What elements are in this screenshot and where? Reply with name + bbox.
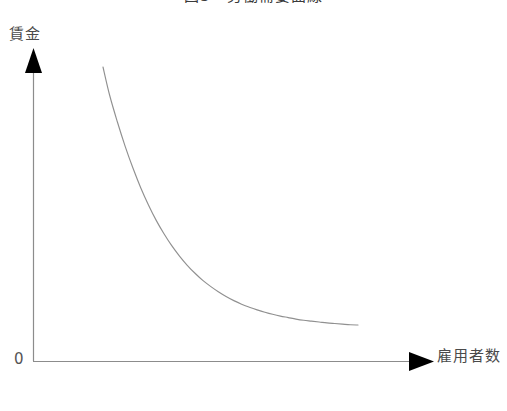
figure-container: 図3 労働需要曲線 賃金 雇用者数 0 [0, 0, 507, 411]
right-arrow-icon [409, 352, 434, 371]
up-arrow-icon [25, 48, 42, 73]
plot-area [0, 0, 507, 411]
labor-demand-curve [103, 67, 358, 325]
